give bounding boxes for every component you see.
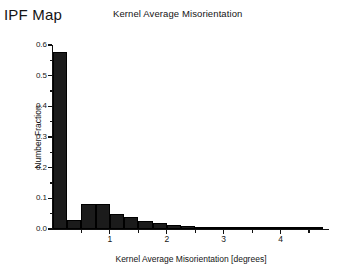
y-tick-label: 0.1 bbox=[36, 194, 47, 202]
histogram-bar bbox=[153, 223, 167, 229]
histogram-bar bbox=[53, 52, 67, 229]
x-tick-minor bbox=[195, 230, 196, 233]
y-tick-label: 0.2 bbox=[36, 164, 47, 172]
x-axis-line bbox=[52, 229, 329, 230]
y-tick bbox=[48, 44, 52, 45]
histogram-plot-area: 0.00.10.20.30.40.50.61234 bbox=[53, 45, 329, 229]
x-tick-label: 4 bbox=[278, 235, 283, 244]
x-axis-title: Kernel Average Misorientation [degrees] bbox=[53, 254, 329, 264]
histogram-bar bbox=[295, 227, 309, 229]
histogram-bar bbox=[195, 227, 209, 229]
y-tick bbox=[48, 75, 52, 76]
y-tick-label: 0.5 bbox=[36, 72, 47, 80]
x-tick-label: 3 bbox=[221, 235, 226, 244]
y-tick-minor bbox=[50, 213, 53, 214]
y-tick bbox=[48, 198, 52, 199]
y-tick bbox=[48, 106, 52, 107]
histogram-bars bbox=[53, 45, 329, 229]
y-tick bbox=[48, 228, 52, 229]
histogram-bar bbox=[138, 221, 152, 229]
histogram-bar bbox=[67, 220, 81, 229]
histogram-bar bbox=[209, 227, 223, 229]
histogram-bar bbox=[124, 217, 138, 229]
y-tick-label: 0.6 bbox=[36, 41, 47, 49]
y-tick-minor bbox=[50, 121, 53, 122]
y-tick-label: 0.0 bbox=[36, 225, 47, 233]
y-tick-label: 0.3 bbox=[36, 133, 47, 141]
x-tick-label: 1 bbox=[108, 235, 113, 244]
histogram-bar bbox=[224, 227, 238, 229]
histogram-bar bbox=[252, 227, 266, 229]
histogram-bar bbox=[167, 225, 181, 229]
histogram-bar bbox=[110, 214, 124, 229]
x-tick-minor bbox=[138, 230, 139, 233]
histogram-bar bbox=[238, 227, 252, 229]
histogram-bar bbox=[96, 204, 110, 229]
chart-title: Kernel Average Misorientation bbox=[113, 8, 242, 19]
histogram-bar bbox=[266, 227, 280, 229]
histogram-bar bbox=[281, 227, 295, 229]
y-tick bbox=[48, 136, 52, 137]
y-tick-minor bbox=[50, 60, 53, 61]
x-tick-minor bbox=[308, 230, 309, 233]
screenshot-root: IPF Map Kernel Average Misorientation Nu… bbox=[0, 0, 362, 274]
x-tick-label: 2 bbox=[164, 235, 169, 244]
y-tick-minor bbox=[50, 152, 53, 153]
histogram-bar bbox=[181, 226, 195, 229]
y-tick-minor bbox=[50, 90, 53, 91]
y-tick-minor bbox=[50, 182, 53, 183]
x-tick-minor bbox=[252, 230, 253, 233]
y-tick-label: 0.4 bbox=[36, 102, 47, 110]
histogram-bar bbox=[81, 204, 95, 229]
y-tick bbox=[48, 167, 52, 168]
histogram-bar bbox=[309, 227, 323, 229]
ipf-map-label: IPF Map bbox=[4, 6, 62, 23]
x-tick-minor bbox=[81, 230, 82, 233]
